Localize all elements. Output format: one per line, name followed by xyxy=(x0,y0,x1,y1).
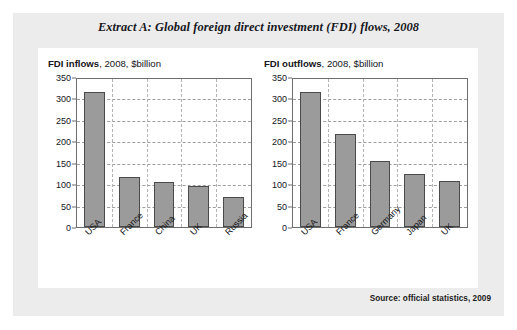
y-tick-label: 200 xyxy=(56,137,71,147)
y-tick-label: 50 xyxy=(61,202,71,212)
chart-title-outflows-bold: FDI outflows xyxy=(264,58,322,69)
source-note: Source: official statistics, 2009 xyxy=(370,294,491,303)
plot-area-outflows xyxy=(292,78,468,228)
y-tick-label: 100 xyxy=(56,180,71,190)
gridline-vertical xyxy=(397,79,398,227)
x-axis-labels-inflows: USAFranceChinaUKRussia xyxy=(76,230,252,282)
gridline-vertical xyxy=(216,79,217,227)
page-title: Extract A: Global foreign direct investm… xyxy=(13,20,504,35)
bar-usa xyxy=(300,92,321,227)
charts-card: FDI inflows, 2008, $billion 050100150200… xyxy=(38,48,478,288)
plot-area-inflows xyxy=(76,78,252,228)
y-tick-label: 150 xyxy=(272,159,287,169)
gridline-vertical xyxy=(147,79,148,227)
gridline-vertical xyxy=(363,79,364,227)
y-tick-label: 200 xyxy=(272,137,287,147)
plot-wrapper-outflows: 050100150200250300350 xyxy=(260,78,472,228)
y-tick-label: 50 xyxy=(277,202,287,212)
bar-usa xyxy=(84,92,105,227)
chart-title-inflows-bold: FDI inflows xyxy=(48,58,99,69)
chart-fdi-inflows: FDI inflows, 2008, $billion 050100150200… xyxy=(44,58,256,283)
y-tick-label: 350 xyxy=(56,73,71,83)
y-tick-label: 350 xyxy=(272,73,287,83)
y-tick-label: 150 xyxy=(56,159,71,169)
gridline-vertical xyxy=(181,79,182,227)
bar-uk xyxy=(439,181,460,227)
y-tick-label: 250 xyxy=(272,116,287,126)
chart-title-inflows-rest: , 2008, $billion xyxy=(99,58,161,69)
y-axis-outflows: 050100150200250300350 xyxy=(260,78,290,228)
chart-fdi-outflows: FDI outflows, 2008, $billion 05010015020… xyxy=(260,58,472,283)
chart-title-inflows: FDI inflows, 2008, $billion xyxy=(48,58,161,69)
plot-wrapper-inflows: 050100150200250300350 xyxy=(44,78,256,228)
y-tick-label: 0 xyxy=(282,223,287,233)
y-tick-label: 250 xyxy=(56,116,71,126)
gridline-vertical xyxy=(328,79,329,227)
y-tick-label: 300 xyxy=(272,94,287,104)
y-axis-inflows: 050100150200250300350 xyxy=(44,78,74,228)
y-tick-label: 100 xyxy=(272,180,287,190)
y-tick-label: 300 xyxy=(56,94,71,104)
chart-title-outflows-rest: , 2008, $billion xyxy=(322,58,384,69)
x-axis-labels-outflows: USAFranceGermanyJapanUK xyxy=(292,230,468,282)
gridline-vertical xyxy=(432,79,433,227)
screenshot-root: Extract A: Global foreign direct investm… xyxy=(0,0,517,330)
y-tick-label: 0 xyxy=(66,223,71,233)
bar-uk xyxy=(188,186,209,227)
gridline-vertical xyxy=(112,79,113,227)
chart-title-outflows: FDI outflows, 2008, $billion xyxy=(264,58,383,69)
